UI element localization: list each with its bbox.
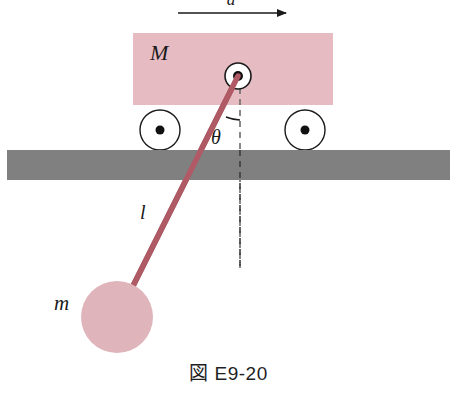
rod-line-overlay [120,76,238,312]
figure-caption: 図 E9-20 [0,358,457,385]
diagram-canvas: a M l θ [0,0,457,393]
physics-figure: a M l θ [0,0,457,393]
acceleration-label: a [227,0,236,9]
bob-mass-label: m [54,291,69,315]
wheel-right [285,110,325,150]
angle-arc [226,117,240,120]
pendulum-bob: m [54,281,153,353]
bob-circle [81,281,153,353]
wheel-right-axle-dot [301,126,310,135]
ground-bar [7,150,450,180]
cart-mass-label: M [149,40,170,65]
wheel-left [140,110,180,150]
acceleration-arrow: a [178,0,286,13]
wheel-left-axle-dot [156,126,165,135]
rod-length-label: l [140,201,146,223]
